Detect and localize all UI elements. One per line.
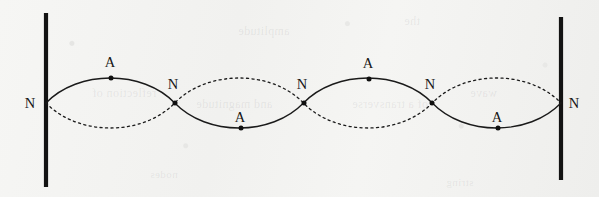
- boundary-walls-group: [46, 13, 561, 187]
- antinode-dot-3: [496, 126, 501, 131]
- node-dot-1: [173, 101, 178, 106]
- node-dot-3: [430, 101, 435, 106]
- node-label-1: N: [168, 77, 178, 92]
- antinode-dot-2: [367, 77, 372, 82]
- node-label-2: N: [297, 77, 307, 92]
- standing-wave-figure: reflection ofand magnitudeof a transvers…: [0, 0, 599, 197]
- antinode-label-3: A: [492, 110, 502, 125]
- node-label-3: N: [425, 77, 435, 92]
- node-dot-2: [302, 101, 307, 106]
- antinode-label-0: A: [105, 55, 115, 70]
- antinode-dot-0: [109, 76, 114, 81]
- antinode-label-2: A: [363, 56, 373, 71]
- node-label-4: N: [569, 96, 579, 111]
- antinode-label-1: A: [235, 110, 245, 125]
- antinode-dot-1: [239, 126, 244, 131]
- node-label-0: N: [25, 96, 35, 111]
- wave-drawing-canvas: [0, 0, 599, 197]
